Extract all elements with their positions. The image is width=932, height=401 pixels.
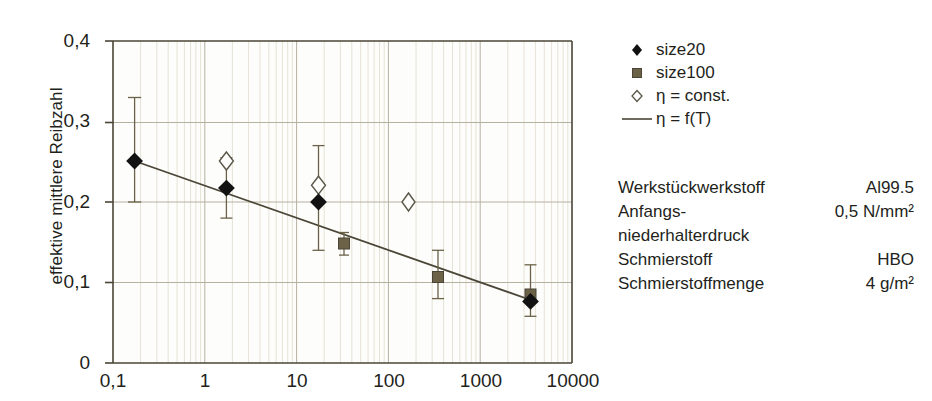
marker-filled-square <box>339 238 350 249</box>
chart-legend: size20 size100 η = const. η = f(T) <box>618 38 918 130</box>
legend-item-eta-fT: η = f(T) <box>618 107 918 130</box>
param-value: 0,5 N/mm² <box>835 200 914 224</box>
legend-item-eta-const: η = const. <box>618 84 918 107</box>
param-row-schmierstoff: Schmierstoff HBO <box>618 248 914 272</box>
open-diamond-icon <box>618 88 656 104</box>
marker-filled-square <box>433 272 444 283</box>
chart-figure: effektive mittlere Reibzahl 0,4 0,3 0,2 … <box>0 0 600 401</box>
legend-label-size20: size20 <box>656 40 705 60</box>
param-key: Werkstückwerkstoff <box>618 176 765 200</box>
legend-label-eta-const: η = const. <box>656 86 730 106</box>
param-value: 4 g/m² <box>866 272 914 296</box>
legend-item-size100: size100 <box>618 61 918 84</box>
legend-item-size20: size20 <box>618 38 918 61</box>
param-key: Schmierstoff <box>618 248 712 272</box>
legend-label-size100: size100 <box>656 63 715 83</box>
parameter-table: Werkstückwerkstoff Al99.5 Anfangs- 0,5 N… <box>618 176 914 296</box>
y-ticks <box>105 41 113 363</box>
param-key: Anfangs- <box>618 200 686 224</box>
param-value: Al99.5 <box>866 176 914 200</box>
param-key-continuation: niederhalterdruck <box>618 224 914 248</box>
filled-diamond-icon <box>618 42 656 58</box>
filled-square-icon <box>618 65 656 81</box>
plot-canvas <box>0 0 600 401</box>
param-row-anfangsniederhalterdruck: Anfangs- 0,5 N/mm² <box>618 200 914 224</box>
param-key: Schmierstoffmenge <box>618 272 764 296</box>
legend-label-eta-fT: η = f(T) <box>656 109 711 129</box>
chart-page: effektive mittlere Reibzahl 0,4 0,3 0,2 … <box>0 0 932 401</box>
param-value: HBO <box>877 248 914 272</box>
line-icon <box>618 111 656 127</box>
param-row-werkstueckwerkstoff: Werkstückwerkstoff Al99.5 <box>618 176 914 200</box>
param-row-schmierstoffmenge: Schmierstoffmenge 4 g/m² <box>618 272 914 296</box>
